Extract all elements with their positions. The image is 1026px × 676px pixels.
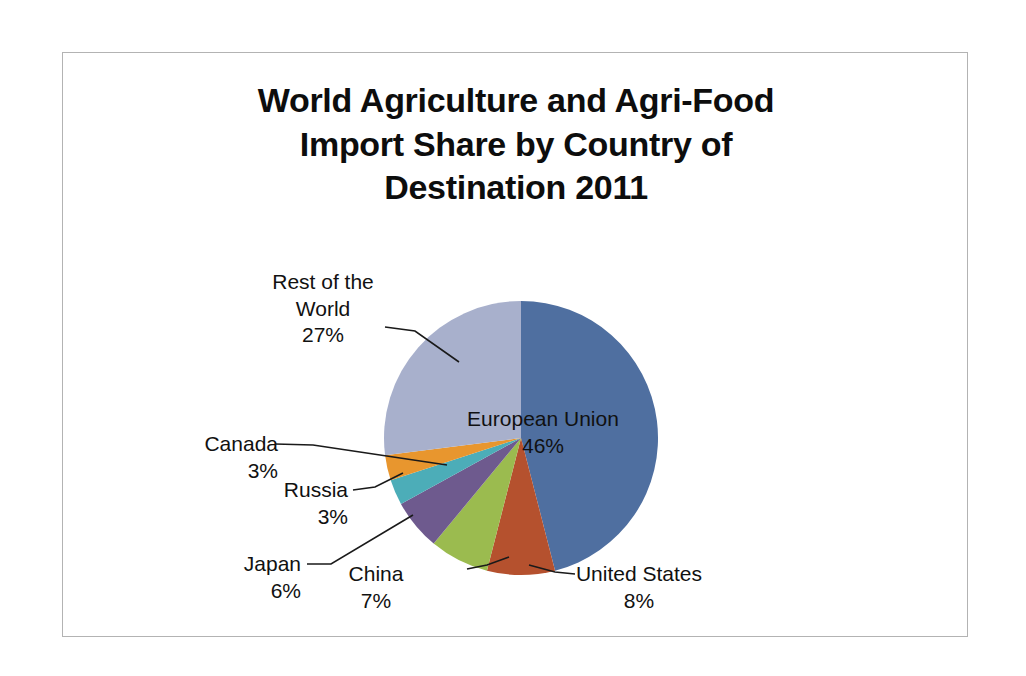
chart-frame: World Agriculture and Agri-Food Import S… bbox=[62, 52, 968, 637]
pie-label-russia: Russia 3% bbox=[223, 477, 348, 530]
pie-label-united-states: United States 8% bbox=[529, 561, 749, 614]
pie-label-european-union: European Union 46% bbox=[463, 406, 623, 459]
chart-page: { "chart_data": { "type": "pie", "title"… bbox=[0, 0, 1026, 676]
pie-label-japan: Japan 6% bbox=[171, 551, 301, 604]
pie-label-rest-of-world: Rest of the World 27% bbox=[248, 269, 398, 349]
pie-label-china: China 7% bbox=[311, 561, 441, 614]
